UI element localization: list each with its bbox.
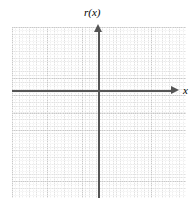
coordinate-plane-figure: r(x) x [0, 0, 195, 209]
x-axis-label: x [183, 85, 188, 96]
y-axis-line [98, 31, 100, 198]
y-axis-arrowhead-icon [94, 24, 102, 32]
y-axis-label: r(x) [84, 7, 101, 18]
x-axis-line [12, 90, 173, 92]
x-axis-arrowhead-icon [171, 86, 179, 94]
